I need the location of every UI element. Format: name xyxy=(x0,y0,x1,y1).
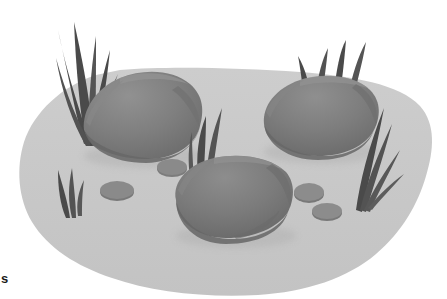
caption-text-fragment: s xyxy=(1,272,8,286)
pebble-4 xyxy=(312,203,342,221)
pebble-2 xyxy=(157,159,187,177)
rocky-ground-illustration xyxy=(0,0,447,299)
illustration-canvas: s xyxy=(0,0,447,299)
pebble-3 xyxy=(294,183,324,203)
pebble-1 xyxy=(100,181,134,201)
